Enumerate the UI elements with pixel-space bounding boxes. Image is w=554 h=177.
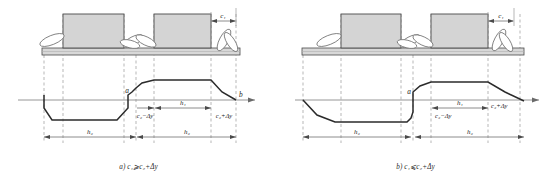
dimension-label-c1: c₁ [498,12,504,20]
dimension-c1: c₁ [211,8,236,26]
point-label-a: a [407,87,411,96]
dimension-label-c1: c₁ [220,12,226,20]
dimension-label-c2-plus-dy: c₂+Δy [491,102,508,109]
figure-sheet: a b c₁ c₂−Δy h₁ c₂+Δy [0,0,554,177]
reference-axis [18,97,255,102]
dimension-c1: c₁ [488,8,514,26]
dimension-row-bottom: h₂ h₂ [44,128,236,139]
panel-b-caption: b) c₁⩽c₂+Δy [277,162,554,171]
block-right [154,14,211,48]
leaf-icon [38,31,66,49]
slab [42,48,240,55]
point-label-b: b [239,90,243,99]
slab [302,48,524,55]
dimension-label-c2-minus-dy: c₂−Δy [435,112,452,119]
dimension-label-h2-right: h₂ [467,128,474,136]
leaf-icon [315,31,343,49]
panel-a-drawing: a b c₁ c₂−Δy h₁ c₂+Δy [0,0,277,177]
panel-a-caption: a) c₁⩾c₂+Δy [0,162,277,171]
dimension-label-h2-right: h₂ [184,128,191,136]
panel-b-drawing: a c₁ c₂−Δy h₁ c₂+Δy h [277,0,554,177]
dimension-label-h1: h₁ [180,99,186,107]
dimension-row-bottom: h₂ h₂ [303,128,524,139]
dimension-label-c2-plus-dy: c₂+Δy [216,112,233,119]
dimension-label-h2-left: h₂ [87,128,94,136]
figure-panel-b: a c₁ c₂−Δy h₁ c₂+Δy h [277,0,554,177]
block-right [431,14,488,48]
figure-panel-a: a b c₁ c₂−Δy h₁ c₂+Δy [0,0,277,177]
block-left [341,14,401,48]
dimension-row-mid: c₂−Δy h₁ c₂+Δy [432,99,508,119]
dimension-row-mid: c₂−Δy h₁ c₂+Δy [137,99,233,119]
point-label-a: a [125,86,129,95]
dimension-label-h2-left: h₂ [354,128,361,136]
dimension-label-c2-minus-dy: c₂−Δy [137,112,154,119]
block-left [63,14,124,48]
dimension-label-h1: h₁ [457,99,463,107]
